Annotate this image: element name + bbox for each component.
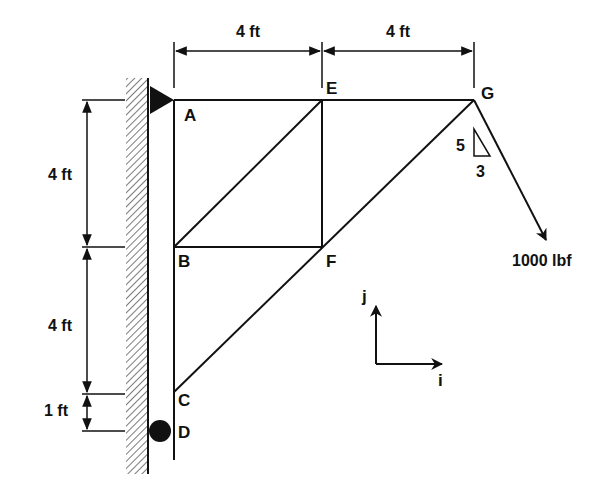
slope-run: 3: [476, 163, 485, 180]
slope-rise: 5: [456, 137, 465, 154]
left-dimensions: [82, 100, 125, 431]
dim-top-right: 4 ft: [386, 23, 411, 40]
node-label-C: C: [178, 391, 190, 410]
slope-triangle-icon: [474, 129, 490, 156]
dim-left-lower: 1 ft: [44, 402, 69, 419]
axis-label-i: i: [438, 371, 443, 390]
axis-label-j: j: [361, 287, 367, 306]
top-dimensions: [174, 42, 474, 88]
wall: [126, 78, 148, 474]
node-label-G: G: [481, 84, 494, 103]
node-label-B: B: [178, 252, 190, 271]
node-label-A: A: [184, 106, 196, 125]
load-magnitude: 1000 lbf: [512, 252, 572, 269]
truss-diagram: 4 ft 4 ft 4 ft 4 ft 1 ft A B C D E F G 1…: [0, 0, 614, 497]
node-label-D: D: [178, 423, 190, 442]
dim-left-upper: 4 ft: [48, 166, 73, 183]
truss-members: [174, 100, 474, 460]
roller-support-icon: [149, 420, 171, 442]
node-label-E: E: [326, 79, 337, 98]
node-label-F: F: [326, 252, 336, 271]
pin-support-icon: [150, 86, 174, 114]
dim-left-middle: 4 ft: [48, 317, 73, 334]
coordinate-axes-icon: [376, 306, 442, 364]
dim-top-left: 4 ft: [236, 23, 261, 40]
